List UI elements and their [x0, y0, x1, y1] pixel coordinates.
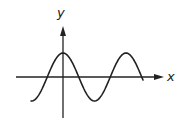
- x-axis-arrow-icon: [154, 74, 164, 80]
- x-axis-label: x: [167, 70, 175, 83]
- y-axis-arrow-icon: [60, 26, 66, 36]
- function-graph: [0, 0, 186, 122]
- y-axis-label: y: [57, 6, 65, 19]
